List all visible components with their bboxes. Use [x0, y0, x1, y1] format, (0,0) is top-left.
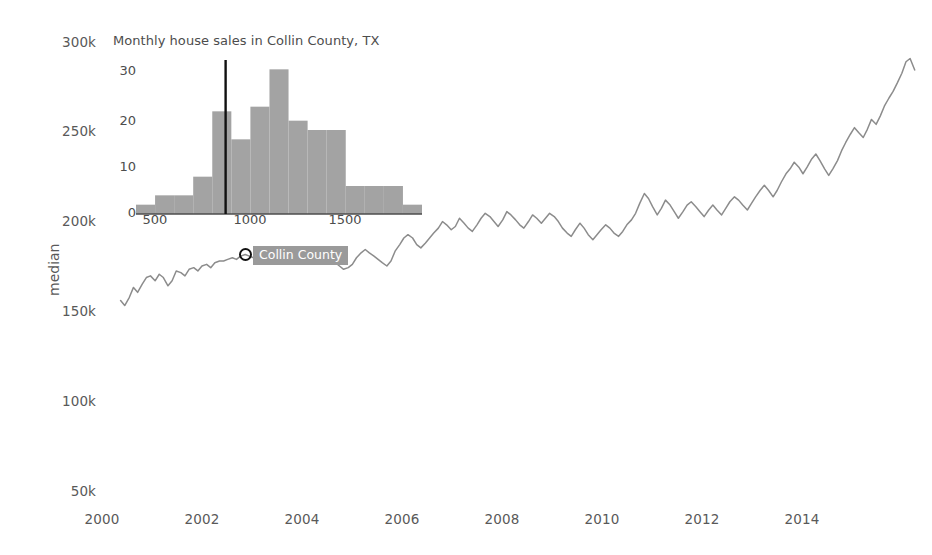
histogram-bar	[365, 186, 384, 214]
inset-chart-title: Monthly house sales in Collin County, TX	[113, 33, 379, 48]
series-tooltip-collin-county[interactable]: Collin County	[253, 246, 348, 265]
inset-x-tick-1500: 1500	[321, 212, 369, 227]
inset-y-tick-10: 10	[108, 159, 136, 174]
y-tick-250k: 250k	[36, 123, 96, 139]
histogram-bar	[346, 186, 365, 214]
chart-canvas: 300k 250k 200k 150k 100k 50k 2000 2002 2…	[0, 0, 932, 555]
histogram-bar	[212, 111, 231, 214]
histogram-bar	[403, 205, 422, 214]
inset-histogram-plot	[136, 60, 422, 214]
inset-x-tick-500: 500	[131, 212, 179, 227]
histogram-bar	[289, 121, 308, 214]
histogram-bar	[308, 130, 327, 214]
y-tick-200k: 200k	[36, 213, 96, 229]
histogram-bar	[269, 69, 288, 214]
inset-y-tick-20: 20	[108, 113, 136, 128]
histogram-bar	[193, 177, 212, 214]
histogram-bar	[327, 130, 346, 214]
x-tick-2006: 2006	[372, 511, 432, 527]
y-tick-300k: 300k	[36, 34, 96, 50]
x-tick-2004: 2004	[272, 511, 332, 527]
x-tick-2014: 2014	[772, 511, 832, 527]
y-tick-50k: 50k	[36, 483, 96, 499]
x-tick-2012: 2012	[672, 511, 732, 527]
x-tick-2000: 2000	[72, 511, 132, 527]
x-tick-2010: 2010	[572, 511, 632, 527]
main-line-chart	[0, 0, 932, 555]
y-tick-100k: 100k	[36, 393, 96, 409]
y-axis-title: median	[46, 244, 62, 296]
x-tick-2002: 2002	[172, 511, 232, 527]
series-point-marker-icon	[239, 248, 252, 261]
inset-y-tick-30: 30	[108, 63, 136, 78]
histogram-bar	[384, 186, 403, 214]
histogram-bar	[231, 139, 250, 214]
inset-x-tick-1000: 1000	[226, 212, 274, 227]
y-tick-150k: 150k	[36, 303, 96, 319]
x-tick-2008: 2008	[472, 511, 532, 527]
histogram-bar	[250, 107, 269, 214]
